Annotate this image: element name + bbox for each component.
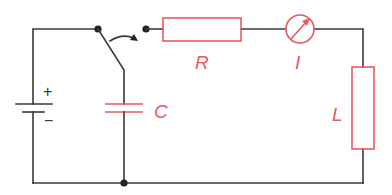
resistor: R (163, 18, 241, 73)
capacitor: C (105, 101, 168, 183)
ammeter-needle (291, 21, 307, 39)
resistor-label: R (195, 52, 209, 73)
ammeter: I (286, 15, 314, 73)
resistor-body (163, 18, 241, 41)
wire-ammeter-to-inductor (314, 29, 363, 67)
battery-minus-sign: − (44, 112, 53, 129)
ammeter-label: I (295, 52, 301, 73)
inductor-label: L (332, 104, 343, 125)
battery: + − (16, 83, 53, 129)
circuit-diagram: + − C R I L (0, 0, 392, 195)
inductor: L (332, 67, 374, 149)
switch-direction-arrow (110, 36, 134, 41)
battery-plus-sign: + (43, 83, 52, 100)
switch (94, 25, 149, 104)
junction-dot (120, 179, 127, 186)
inductor-body (352, 67, 374, 149)
capacitor-label: C (154, 101, 168, 122)
